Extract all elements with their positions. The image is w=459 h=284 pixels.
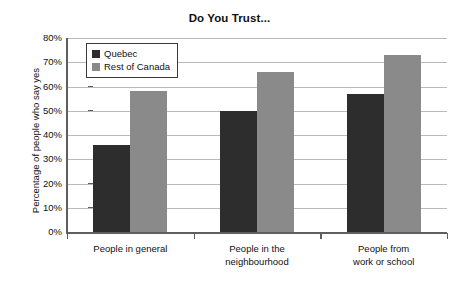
- y-axis-line: [66, 38, 68, 233]
- y-axis-tick-label: 80%: [28, 33, 62, 43]
- x-axis-line: [66, 232, 447, 234]
- bar-rest-of-canada-0: [130, 91, 167, 232]
- bar-chart: Do You Trust... Percentage of people who…: [0, 0, 459, 284]
- bar-quebec-2: [347, 94, 384, 232]
- y-axis-tick-labels: 80%70%60%50%40%30%20%10%0%: [26, 0, 62, 284]
- chart-title: Do You Trust...: [0, 12, 459, 24]
- legend-label-rest-of-canada: Rest of Canada: [104, 61, 170, 72]
- y-axis-tick-label: 20%: [28, 179, 62, 189]
- bar-quebec-1: [220, 111, 257, 232]
- gridline: [67, 38, 447, 39]
- x-axis-category-label-line: People in general: [67, 243, 194, 256]
- x-axis-category-label: People fromwork or school: [320, 243, 447, 268]
- legend-item-quebec: Quebec: [92, 47, 170, 60]
- x-axis-category-label: People in general: [67, 243, 194, 256]
- legend-item-rest-of-canada: Rest of Canada: [92, 60, 170, 73]
- bar-rest-of-canada-2: [384, 55, 421, 232]
- y-axis-tick-label: 60%: [28, 82, 62, 92]
- x-axis-category-label-line: neighbourhood: [194, 256, 321, 269]
- chart-legend: Quebec Rest of Canada: [86, 43, 178, 78]
- legend-swatch-icon-rest-of-canada: [92, 63, 100, 71]
- y-axis-tick-label: 10%: [28, 203, 62, 213]
- x-axis-tick-mark: [320, 233, 321, 239]
- x-axis-category-label-line: People in the: [194, 243, 321, 256]
- y-axis-tick-label: 0%: [28, 227, 62, 237]
- x-axis-category-label-line: People from: [320, 243, 447, 256]
- bar-rest-of-canada-1: [257, 72, 294, 232]
- y-axis-tick-label: 30%: [28, 154, 62, 164]
- x-axis-tick-mark: [67, 233, 68, 239]
- y-axis-tick-label: 70%: [28, 57, 62, 67]
- x-axis-category-label: People in theneighbourhood: [194, 243, 321, 268]
- x-axis-tick-mark-end: [447, 233, 448, 239]
- bar-quebec-0: [93, 145, 130, 232]
- legend-label-quebec: Quebec: [104, 48, 137, 59]
- x-axis-tick-mark: [194, 233, 195, 239]
- y-axis-tick-label: 50%: [28, 106, 62, 116]
- y-axis-tick-label: 40%: [28, 130, 62, 140]
- legend-swatch-icon-quebec: [92, 50, 100, 58]
- x-axis-category-label-line: work or school: [320, 256, 447, 269]
